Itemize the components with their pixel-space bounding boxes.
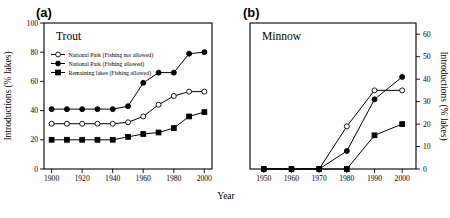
panel-a-tag: (a) xyxy=(36,5,52,20)
panel-b-ytick-40: 40 xyxy=(423,75,431,84)
panel-b-xtick-1960: 1960 xyxy=(284,174,299,183)
filled-square-icon xyxy=(56,70,61,75)
legend-entry-0: National Park (Fishing not allowed) xyxy=(51,52,153,59)
panel-b-ytick-0: 0 xyxy=(423,165,427,174)
data-point-open-circle xyxy=(95,121,100,126)
panel-b: (b) Minnow 0 10 20 30 40 50 60 xyxy=(243,5,449,183)
panel-b-series-group xyxy=(261,74,404,171)
filled-circle-icon xyxy=(56,61,61,66)
data-point-filled-square xyxy=(95,137,100,142)
legend-entry-2: Remaining lakes (Fishing allowed) xyxy=(51,70,151,77)
series-1 xyxy=(261,74,404,171)
panel-b-tag: (b) xyxy=(243,5,260,20)
data-point-open-circle xyxy=(110,121,115,126)
data-point-filled-circle xyxy=(49,107,54,112)
panel-b-xtick-1970: 1970 xyxy=(312,174,327,183)
data-point-open-circle xyxy=(372,88,377,93)
data-point-filled-circle xyxy=(156,70,161,75)
data-point-filled-square xyxy=(202,110,207,115)
data-point-filled-square xyxy=(156,130,161,135)
open-circle-icon xyxy=(56,52,61,57)
data-point-filled-circle xyxy=(95,107,100,112)
data-point-open-circle xyxy=(80,121,85,126)
panel-b-ytick-20: 20 xyxy=(423,120,431,129)
data-point-filled-circle xyxy=(80,107,85,112)
legend-entry-1: National Park (Fishing allowed) xyxy=(51,61,144,68)
panel-b-ytick-10: 10 xyxy=(423,142,431,151)
panel-a-ytick-60: 60 xyxy=(30,77,38,86)
panel-a-title: Trout xyxy=(56,30,82,42)
panel-a-xtick-1980: 1980 xyxy=(166,174,181,183)
panel-a-ytick-100: 100 xyxy=(27,19,39,28)
legend-label-2: Remaining lakes (Fishing allowed) xyxy=(69,70,152,77)
panel-a-ytick-0: 0 xyxy=(34,165,38,174)
data-point-filled-square xyxy=(317,167,322,172)
data-point-filled-square xyxy=(65,137,70,142)
legend-label-1: National Park (Fishing allowed) xyxy=(69,61,145,68)
panel-b-ytick-30: 30 xyxy=(423,97,431,106)
data-point-filled-square xyxy=(126,134,131,139)
y-axis-title-right: Introductions (% lakes) xyxy=(438,51,449,140)
series-line xyxy=(264,90,402,169)
series-line xyxy=(264,124,402,169)
data-point-filled-square xyxy=(80,137,85,142)
data-point-filled-square xyxy=(289,167,294,172)
data-point-filled-square xyxy=(261,167,266,172)
data-point-open-circle xyxy=(171,94,176,99)
panel-b-title: Minnow xyxy=(262,30,302,42)
panel-a: (a) Trout 0 20 40 60 80 100 xyxy=(3,5,212,183)
figure-container: (a) Trout 0 20 40 60 80 100 xyxy=(0,0,450,218)
data-point-filled-square xyxy=(400,122,405,127)
x-axis-title: Year xyxy=(217,191,235,201)
data-point-filled-circle xyxy=(344,149,349,154)
data-point-open-circle xyxy=(64,121,69,126)
y-axis-title-left: Introductions (% lakes) xyxy=(3,51,14,140)
data-point-filled-square xyxy=(171,126,176,131)
data-point-open-circle xyxy=(49,121,54,126)
panel-a-xtick-1920: 1920 xyxy=(75,174,90,183)
data-point-open-circle xyxy=(187,89,192,94)
data-point-filled-circle xyxy=(372,97,377,102)
data-point-filled-square xyxy=(49,137,54,142)
panel-b-y-ticks: 0 10 20 30 40 50 60 xyxy=(416,30,431,174)
data-point-filled-circle xyxy=(400,74,405,79)
data-point-filled-square xyxy=(110,137,115,142)
data-point-open-circle xyxy=(126,120,131,125)
panel-a-plot-frame xyxy=(44,23,212,169)
series-2 xyxy=(261,122,404,172)
panel-b-ytick-50: 50 xyxy=(423,52,431,61)
data-point-open-circle xyxy=(344,124,349,129)
data-point-open-circle xyxy=(400,88,405,93)
data-point-filled-circle xyxy=(126,104,131,109)
data-point-filled-circle xyxy=(202,50,207,55)
series-2 xyxy=(49,110,207,143)
panel-a-xtick-1940: 1940 xyxy=(105,174,120,183)
panel-a-y-ticks: 0 20 40 60 80 100 xyxy=(27,19,44,174)
data-point-filled-circle xyxy=(171,70,176,75)
data-point-filled-square xyxy=(187,114,192,119)
panel-a-x-ticks: 1900 1920 1940 1960 1980 2000 xyxy=(44,169,212,183)
data-point-filled-circle xyxy=(110,107,115,112)
panel-b-xtick-1980: 1980 xyxy=(339,174,354,183)
series-1 xyxy=(49,50,207,112)
data-point-filled-circle xyxy=(64,107,69,112)
data-point-open-circle xyxy=(156,102,161,107)
data-point-filled-circle xyxy=(187,51,192,56)
data-point-filled-square xyxy=(344,167,349,172)
panel-a-ytick-20: 20 xyxy=(30,135,38,144)
data-point-filled-square xyxy=(141,132,146,137)
panel-a-ytick-40: 40 xyxy=(30,106,38,115)
data-point-open-circle xyxy=(141,114,146,119)
panel-a-xtick-1900: 1900 xyxy=(44,174,59,183)
panel-a-ytick-80: 80 xyxy=(30,48,38,57)
panel-b-xtick-2000: 2000 xyxy=(395,174,410,183)
panel-a-legend: National Park (Fishing not allowed) Nati… xyxy=(51,52,153,77)
data-point-filled-square xyxy=(372,133,377,138)
panel-b-xtick-1950: 1950 xyxy=(256,174,271,183)
series-0 xyxy=(261,88,404,172)
data-point-filled-circle xyxy=(141,80,146,85)
panel-b-ytick-60: 60 xyxy=(423,30,431,39)
panel-a-xtick-1960: 1960 xyxy=(136,174,151,183)
two-panel-line-chart: (a) Trout 0 20 40 60 80 100 xyxy=(0,0,450,218)
panel-a-xtick-2000: 2000 xyxy=(197,174,212,183)
